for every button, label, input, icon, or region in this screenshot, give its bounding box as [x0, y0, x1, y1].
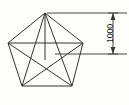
- diagonal-top-bottomleft: [22, 13, 45, 86]
- dimension-label: 1000: [106, 17, 115, 51]
- diagonal-bottomright-left: [8, 43, 72, 86]
- figure-root: 1000: [0, 0, 129, 105]
